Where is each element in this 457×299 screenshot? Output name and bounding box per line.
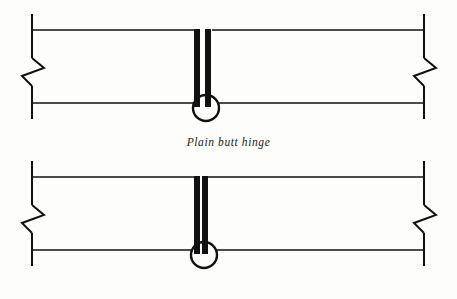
figure-plain-butt-hinge: Plain butt hinge [0, 0, 457, 157]
hinge-leaf-bar-left [194, 29, 200, 107]
figure-swaged-butt-hinge: Swaged butt hinge [0, 147, 457, 299]
break-line-zigzag-left [22, 58, 44, 86]
hinge-leaf-bar-left [194, 176, 200, 254]
hinge-leaf-bar-right [202, 176, 208, 254]
break-line-zigzag-left [22, 205, 44, 233]
hinge-leaf-bar-right [205, 29, 211, 107]
break-line-zigzag-right [414, 205, 436, 233]
diagram-page: Plain butt hinge [0, 0, 457, 299]
break-line-zigzag-right [414, 58, 436, 86]
